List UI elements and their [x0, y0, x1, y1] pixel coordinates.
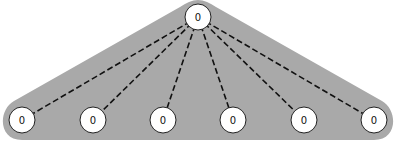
node-label: 0: [230, 115, 236, 126]
diagram-canvas: 0000000: [0, 0, 396, 144]
child-node-5: 0: [291, 107, 317, 133]
child-node-3: 0: [150, 107, 176, 133]
child-node-6: 0: [361, 107, 387, 133]
node-label: 0: [19, 115, 25, 126]
node-label: 0: [195, 12, 201, 23]
child-node-1: 0: [9, 107, 35, 133]
tree-diagram: 0000000: [0, 0, 396, 144]
child-node-4: 0: [220, 107, 246, 133]
child-node-2: 0: [80, 107, 106, 133]
root-node: 0: [185, 4, 211, 30]
node-label: 0: [90, 115, 96, 126]
node-label: 0: [371, 115, 377, 126]
node-label: 0: [301, 115, 307, 126]
node-label: 0: [160, 115, 166, 126]
